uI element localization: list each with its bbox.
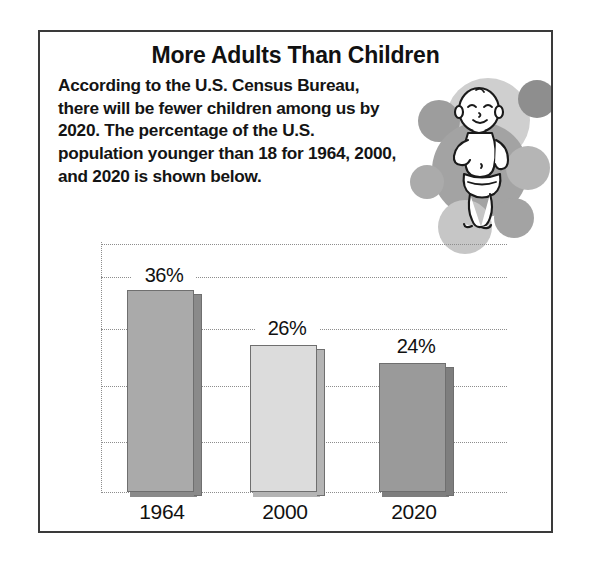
bar-2000 <box>250 345 317 492</box>
bar-2020 <box>379 363 446 492</box>
infographic-panel: More Adults Than Children According to t… <box>38 30 553 533</box>
value-label-2020: 24% <box>384 335 448 358</box>
value-label-1964: 36% <box>132 264 196 287</box>
bar-2020-front-face <box>379 363 446 492</box>
category-label-1964: 1964 <box>122 500 202 524</box>
gridline-40 <box>101 244 507 245</box>
bar-1964 <box>127 290 194 492</box>
bar-1964-shadow <box>130 492 197 497</box>
category-label-2020: 2020 <box>374 500 454 524</box>
bar-2020-shadow <box>382 492 449 497</box>
bar-1964-side-face <box>194 294 202 496</box>
bar-2000-side-face <box>317 349 325 496</box>
value-label-2000: 26% <box>255 317 319 340</box>
bar-2000-front-face <box>250 345 317 492</box>
bar-1964-front-face <box>127 290 194 492</box>
category-label-2000: 2000 <box>245 500 325 524</box>
bar-2000-shadow <box>253 492 320 497</box>
bar-2020-side-face <box>446 367 454 496</box>
chart-y-axis <box>101 242 102 493</box>
bar-chart: 36% 26% 24% 1964 2000 2020 <box>40 32 553 533</box>
